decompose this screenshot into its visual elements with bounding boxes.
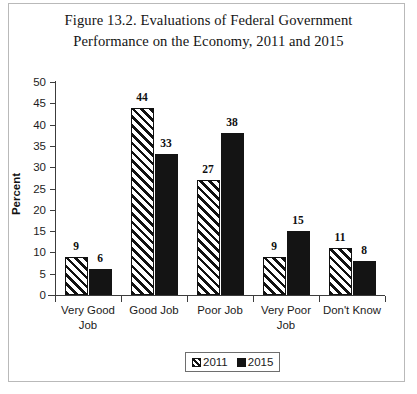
x-axis-tick — [187, 296, 188, 302]
y-axis-tick-label: 35 — [20, 140, 46, 152]
y-axis-tick — [50, 231, 56, 232]
bar-2011-good-job — [131, 108, 154, 295]
y-axis-tick — [50, 274, 56, 275]
y-axis-tick-label: 15 — [20, 225, 46, 237]
y-axis-tick — [50, 125, 56, 126]
y-axis-tick — [50, 167, 56, 168]
x-axis-category-label: Poor Job — [182, 303, 258, 318]
y-axis-tick — [50, 210, 56, 211]
y-axis-tick-label: 5 — [20, 268, 46, 280]
bar-2015-don-t-know — [353, 261, 376, 295]
bar-2015-good-job — [155, 154, 178, 295]
x-axis-category-label: Very GoodJob — [50, 303, 126, 332]
y-axis-tick-label: 25 — [20, 183, 46, 195]
y-axis-tick-label: 40 — [20, 119, 46, 131]
bar-2015-poor-job — [221, 133, 244, 295]
y-axis-tick-label: 45 — [20, 97, 46, 109]
bar-value-label: 9 — [59, 240, 94, 252]
bar-value-label: 6 — [83, 252, 118, 264]
x-axis-tick — [319, 296, 320, 302]
legend-swatch-2011 — [192, 358, 201, 367]
y-axis-tick — [50, 189, 56, 190]
bar-value-label: 33 — [149, 137, 184, 149]
x-axis-tick — [55, 296, 56, 302]
bar-2011-very-poor-job — [263, 257, 286, 295]
bar-value-label: 8 — [347, 244, 382, 256]
y-axis-tick-label: 20 — [20, 204, 46, 216]
x-axis-category-label: Very PoorJob — [248, 303, 324, 332]
x-axis-line — [48, 295, 385, 296]
bar-value-label: 11 — [323, 231, 358, 243]
legend-item-2015[interactable]: 2015 — [237, 356, 274, 368]
x-axis-tick — [121, 296, 122, 302]
y-axis-tick — [50, 103, 56, 104]
bar-2011-poor-job — [197, 180, 220, 295]
bar-2015-very-good-job — [89, 269, 112, 295]
chart-legend: 20112015 — [185, 352, 280, 372]
y-axis-tick — [50, 252, 56, 253]
x-axis-category-label: Don't Know — [314, 303, 390, 318]
x-axis-category-label: Good Job — [116, 303, 192, 318]
y-axis-tick — [50, 82, 56, 83]
bar-value-label: 44 — [125, 91, 160, 103]
y-axis-tick-label: 0 — [20, 289, 46, 301]
bar-2015-very-poor-job — [287, 231, 310, 295]
y-axis-tick-label: 50 — [20, 76, 46, 88]
x-axis-tick — [253, 296, 254, 302]
legend-swatch-2015 — [237, 358, 246, 367]
legend-label: 2011 — [203, 356, 228, 368]
bar-value-label: 38 — [215, 116, 250, 128]
bar-value-label: 15 — [281, 214, 316, 226]
legend-label: 2015 — [248, 356, 274, 368]
y-axis-tick-label: 10 — [20, 246, 46, 258]
x-axis-tick — [385, 296, 386, 302]
legend-item-2011[interactable]: 2011 — [192, 356, 228, 368]
bar-chart-plot: Percent 50454035302520151050 96443327389… — [0, 0, 417, 394]
y-axis-tick — [50, 146, 56, 147]
y-axis-tick-label: 30 — [20, 161, 46, 173]
